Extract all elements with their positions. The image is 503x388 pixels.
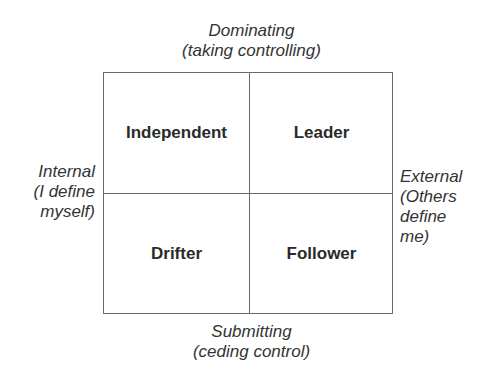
axis-bottom-subtitle: (ceding control)	[0, 342, 503, 362]
axis-top-subtitle: (taking controlling)	[0, 41, 503, 61]
axis-left-title: Internal	[0, 162, 95, 182]
axis-label-left: Internal (I define myself)	[0, 162, 95, 222]
axis-right-title: External	[400, 167, 500, 187]
quadrant-leader: Leader	[249, 73, 394, 193]
axis-label-top: Dominating (taking controlling)	[0, 21, 503, 61]
axis-label-bottom: Submitting (ceding control)	[0, 322, 503, 362]
axis-left-subtitle-2: myself)	[0, 202, 95, 222]
quadrant-drifter: Drifter	[104, 194, 249, 314]
axis-right-subtitle-2: define	[400, 207, 500, 227]
quadrant-grid: Independent Leader Drifter Follower	[103, 72, 393, 314]
axis-right-subtitle-3: me)	[400, 227, 500, 247]
axis-top-title: Dominating	[0, 21, 503, 41]
axis-right-subtitle-1: (Others	[400, 187, 500, 207]
axis-label-right: External (Others define me)	[400, 167, 500, 247]
axis-bottom-title: Submitting	[0, 322, 503, 342]
axis-left-subtitle-1: (I define	[0, 182, 95, 202]
quadrant-independent: Independent	[104, 73, 249, 193]
quadrant-follower: Follower	[249, 194, 394, 314]
